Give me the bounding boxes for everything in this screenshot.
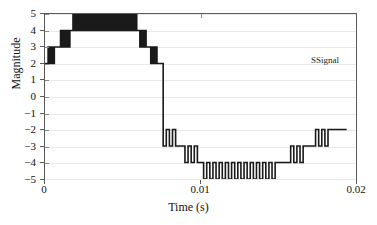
plot-area: SSignal [44, 13, 357, 180]
y-tick-label: −3 [2, 141, 36, 151]
x-tick-top [201, 14, 202, 18]
figure: SSignal 5 4 3 2 1 0 −1 −2 −3 −4 −5 0 0.0… [0, 0, 377, 225]
y-tick-inner [45, 97, 49, 98]
series-annotation-label: SSignal [311, 55, 339, 65]
y-tick-label: −2 [2, 124, 36, 134]
y-tick [40, 46, 44, 47]
y-tick-inner [45, 14, 49, 15]
y-tick [40, 30, 44, 31]
x-tick-label: 0 [24, 183, 64, 195]
x-axis-title: Time (s) [0, 200, 377, 215]
y-tick [40, 162, 44, 163]
y-tick-inner [45, 163, 49, 164]
y-tick-inner [45, 114, 49, 115]
y-tick-inner [45, 64, 49, 65]
y-tick-inner [45, 80, 49, 81]
y-tick [40, 63, 44, 64]
y-tick [40, 13, 44, 14]
y-tick [40, 96, 44, 97]
y-tick-inner [45, 130, 49, 131]
y-tick [40, 113, 44, 114]
y-tick [40, 79, 44, 80]
y-tick [40, 146, 44, 147]
y-tick-label: −4 [2, 157, 36, 167]
y-tick-label: −1 [2, 108, 36, 118]
y-tick-inner [45, 31, 49, 32]
y-axis-title: Magnitude [9, 19, 24, 109]
y-tick-inner [45, 147, 49, 148]
signal-waveform [45, 14, 356, 179]
y-tick-label: 5 [2, 8, 36, 18]
y-tick-inner [45, 47, 49, 48]
x-tick-label: 0.01 [175, 183, 225, 195]
y-tick [40, 129, 44, 130]
x-tick-label: 0.02 [331, 183, 377, 195]
